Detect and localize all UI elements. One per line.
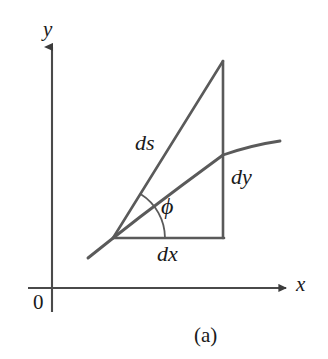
y-axis-label: y [43,19,52,40]
figure-container: y x 0 ds dy dx ϕ (a) [0,0,328,359]
phi-angle-label: ϕ [161,194,173,218]
x-axis-label: x [296,274,305,295]
ds-label: ds [135,132,155,154]
dx-label: dx [157,243,178,265]
dy-label: dy [231,166,252,188]
figure-caption: (a) [194,325,217,346]
function-curve [88,141,280,258]
origin-label: 0 [33,292,44,313]
diagram-canvas [0,0,328,359]
